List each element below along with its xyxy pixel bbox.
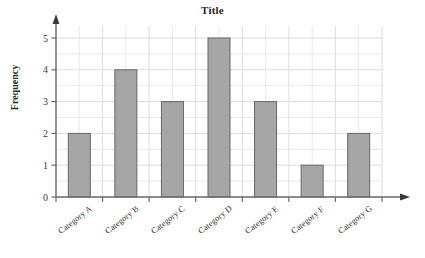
y-tick-label: 1	[43, 160, 48, 171]
y-tick-label: 5	[43, 33, 48, 44]
y-axis-ticks: 012345	[43, 33, 56, 203]
bar	[348, 133, 370, 197]
bar-chart: Title Frequency 012345 Category ACategor…	[0, 0, 425, 258]
bar	[255, 102, 277, 197]
y-tick-label: 0	[43, 192, 48, 203]
y-tick-label: 4	[43, 64, 48, 75]
bar	[301, 165, 323, 197]
bar	[115, 70, 137, 197]
y-tick-label: 3	[43, 96, 48, 107]
x-axis-ticks	[56, 197, 382, 202]
bar	[208, 38, 230, 197]
y-tick-label: 2	[43, 128, 48, 139]
bar	[68, 133, 90, 197]
bar	[161, 102, 183, 197]
